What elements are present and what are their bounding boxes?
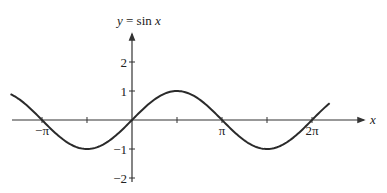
sine-chart: −ππ2π 21−1−2 y = sin x x (0, 0, 387, 193)
axes (12, 34, 364, 182)
x-axis-label: x (369, 112, 376, 127)
x-tick-label: π (219, 123, 226, 138)
y-tick-label: −1 (113, 142, 127, 157)
y-tick-label: 2 (121, 55, 128, 70)
y-tick-label: −2 (113, 171, 127, 186)
title-eq: = sin (123, 13, 155, 28)
chart-title: y = sin x (115, 13, 161, 28)
y-tick-label: 1 (121, 84, 128, 99)
title-x: x (154, 13, 161, 28)
